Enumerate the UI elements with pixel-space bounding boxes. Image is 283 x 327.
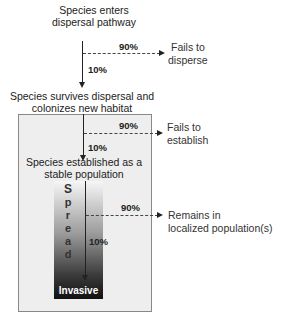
fail-2-line1: Fails to bbox=[167, 121, 208, 134]
invasive-label: Invasive bbox=[54, 285, 103, 296]
spread-letter: S bbox=[62, 183, 74, 196]
stage-3-label: Species established as a stable populati… bbox=[20, 156, 148, 180]
fail-1-percent: 90% bbox=[119, 41, 138, 52]
fail-3-arrowhead-icon bbox=[157, 212, 163, 218]
spread-letter: p bbox=[62, 196, 74, 209]
pass-1-percent: 10% bbox=[88, 64, 107, 75]
stage-1-line2: dispersal pathway bbox=[34, 16, 154, 28]
arrow-3-shaft bbox=[85, 181, 86, 276]
fail-2-percent: 90% bbox=[119, 120, 138, 131]
fail-3-percent: 90% bbox=[121, 202, 140, 213]
fail-3-outcome: Remains in localized population(s) bbox=[168, 209, 272, 235]
spread-letter: d bbox=[62, 248, 74, 261]
fail-1-dashed-line bbox=[83, 53, 160, 54]
stage-3-line2: stable population bbox=[20, 168, 148, 180]
fail-1-line2: disperse bbox=[168, 54, 208, 67]
fail-2-line2: establish bbox=[167, 134, 208, 147]
stage-3-line1: Species established as a bbox=[20, 156, 148, 168]
fail-2-dashed-line bbox=[84, 133, 158, 134]
stage-1-label: Species enters dispersal pathway bbox=[34, 4, 154, 28]
pass-2-percent: 10% bbox=[88, 142, 107, 153]
fail-1-line1: Fails to bbox=[168, 41, 208, 54]
fail-1-outcome: Fails to disperse bbox=[168, 41, 208, 67]
fail-1-arrowhead-icon bbox=[159, 50, 165, 56]
arrow-2-shaft bbox=[83, 114, 84, 156]
spread-letter: r bbox=[62, 209, 74, 222]
fail-2-outcome: Fails to establish bbox=[167, 121, 208, 147]
fail-3-dashed-line bbox=[86, 215, 158, 216]
fail-3-line2: localized population(s) bbox=[168, 222, 272, 235]
stage-2-line2: colonizes new habitat bbox=[4, 102, 160, 114]
spread-label: S p r e a d bbox=[62, 183, 74, 261]
arrow-1-head-icon bbox=[79, 82, 85, 88]
fail-2-arrowhead-icon bbox=[157, 130, 163, 136]
stage-2-label: Species survives dispersal and colonizes… bbox=[4, 90, 160, 114]
spread-letter: a bbox=[62, 235, 74, 248]
fail-3-line1: Remains in bbox=[168, 209, 272, 222]
arrow-3-head-icon bbox=[82, 275, 88, 281]
pass-3-percent: 10% bbox=[89, 236, 108, 247]
stage-2-line1: Species survives dispersal and bbox=[4, 90, 160, 102]
stage-1-line1: Species enters bbox=[34, 4, 154, 16]
arrow-1-shaft bbox=[82, 41, 83, 83]
spread-letter: e bbox=[62, 222, 74, 235]
